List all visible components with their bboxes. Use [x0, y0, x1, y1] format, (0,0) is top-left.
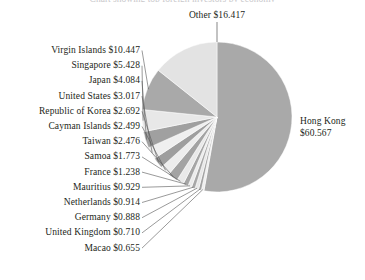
leader-line: [142, 190, 203, 248]
slice-label-singapore: Singapore $5.428: [71, 60, 140, 71]
slice-label-macao: Macao $0.655: [84, 243, 140, 254]
slice-label-virgin-islands: Virgin Islands $10.447: [51, 45, 140, 56]
leader-line-group: [142, 51, 203, 249]
slice-label-united-states: United States $3.017: [59, 91, 140, 102]
slice-label-hong-kong-name: Hong Kong: [300, 116, 346, 128]
slice-label-germany: Germany $0.888: [75, 212, 140, 223]
slice-label-other: Other $16.417: [189, 10, 245, 21]
leader-line: [142, 111, 159, 162]
leader-line: [142, 189, 200, 233]
slice-label-cayman-islands: Cayman Islands $2.499: [48, 121, 140, 132]
leader-line: [142, 172, 186, 184]
leader-line: [142, 96, 152, 153]
slice-label-samoa: Samoa $1.773: [84, 151, 140, 162]
slice-label-mauritius: Mauritius $0.929: [73, 182, 140, 193]
leader-line: [142, 157, 180, 181]
leader-line: [142, 142, 173, 177]
leader-line: [142, 51, 148, 90]
slice-label-taiwan: Taiwan $2.476: [82, 136, 140, 147]
slice-label-netherlands: Netherlands $0.914: [64, 197, 140, 208]
slice-label-japan: Japan $4.084: [89, 75, 140, 86]
slice-label-hong-kong: Hong Kong $60.567: [300, 116, 346, 139]
leader-line: [142, 127, 166, 171]
leader-line: [142, 186, 190, 187]
slice-label-united-kingdom: United Kingdom $0.710: [45, 227, 140, 238]
pie-chart-figure: Chart showing top foreign investors by e…: [0, 0, 365, 280]
slice-label-hong-kong-value: $60.567: [300, 128, 346, 140]
slice-label-republic-of-korea: Republic of Korea $2.692: [39, 106, 140, 117]
slice-label-france: France $1.238: [84, 167, 140, 178]
